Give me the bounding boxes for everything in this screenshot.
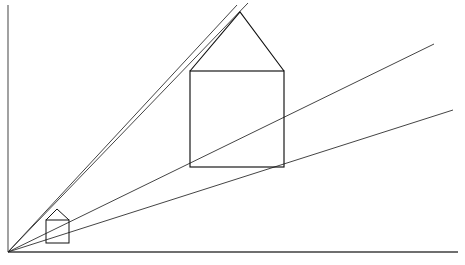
house-shape-group [46,12,284,243]
small-house-shape [46,209,69,243]
perspective-diagram-canvas [0,0,465,265]
figure-frame [8,5,458,252]
large-house-body [190,71,284,167]
sight-ray-group [8,3,458,252]
ray-roof-apex-upper [8,3,248,252]
ray-bottom-right-corner [8,110,453,252]
perspective-diagram-svg [0,0,465,265]
large-house-shape [190,12,284,167]
ray-top-right-corner [8,44,434,252]
ray-roof-apex-lower [8,5,237,252]
large-house-roof [190,12,284,71]
small-house-roof [46,209,69,220]
